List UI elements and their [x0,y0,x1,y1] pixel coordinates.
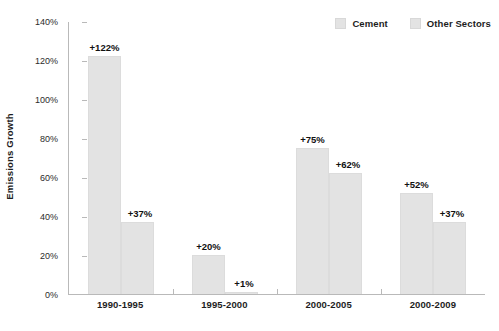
bar-other-sectors-1990-1995[interactable]: +37% [121,222,154,294]
bar-group-2000-2009: +52% +37% [381,22,485,294]
legend-label-cement: Cement [352,19,387,29]
legend-swatch-other-sectors [410,18,421,29]
legend-item-cement: Cement [335,18,387,29]
x-tick-label-4: 2000-2009 [381,300,485,310]
y-axis-title: Emissions Growth [2,0,16,331]
bar-value-label: +62% [336,160,361,170]
bar-other-sectors-2000-2005[interactable]: +62% [329,173,362,294]
bar-value-label: +52% [404,180,429,190]
bar-group-2000-2005: +75% +62% [277,22,381,294]
x-tick-label-2: 1995-2000 [172,300,276,310]
legend-item-other-sectors: Other Sectors [410,18,491,29]
bar-other-sectors-1995-2000[interactable]: +1% [225,292,258,294]
bar-value-label: +75% [300,135,325,145]
y-tick-label-140: 140% [35,18,58,27]
y-tick-label-120: 120% [35,57,58,66]
bar-group-1995-2000: +20% +1% [173,22,277,294]
legend-swatch-cement [335,18,346,29]
bar-cement-2000-2005[interactable]: +75% [296,148,329,294]
bar-cement-2000-2009[interactable]: +52% [400,193,433,294]
emissions-growth-bar-chart: Cement Other Sectors Emissions Growth 14… [0,0,499,331]
bar-cement-1995-2000[interactable]: +20% [192,255,225,294]
bar-cement-1990-1995[interactable]: +122% [88,56,121,294]
y-tick-label-80: 80% [40,135,58,144]
y-tick-label-20: 20% [40,252,58,261]
bar-groups: +122% +37% +20% +1% +75% +62% [69,22,485,294]
y-tick-label-60: 60% [40,174,58,183]
x-tick-label-1: 1990-1995 [68,300,172,310]
y-tick-label-100: 100% [35,96,58,105]
bar-value-label: +37% [128,209,153,219]
bar-value-label: +1% [234,279,253,289]
y-axis-ticks: 140% 120% 100% 80% 60% 40% 20% 0% [18,0,64,331]
x-axis-labels: 1990-1995 1995-2000 2000-2005 2000-2009 [68,300,485,310]
plot-area: +122% +37% +20% +1% +75% +62% [68,22,485,295]
bar-value-label: +20% [196,242,221,252]
bar-other-sectors-2000-2009[interactable]: +37% [433,222,466,294]
bar-value-label: +37% [440,209,465,219]
y-axis-title-text: Emissions Growth [4,113,15,200]
legend-label-other-sectors: Other Sectors [427,19,491,29]
bar-group-1990-1995: +122% +37% [69,22,173,294]
y-tick-label-40: 40% [40,213,58,222]
chart-legend: Cement Other Sectors [335,18,491,29]
y-tick-label-0: 0% [45,291,58,300]
x-tick-label-3: 2000-2005 [277,300,381,310]
bar-value-label: +122% [90,43,120,53]
